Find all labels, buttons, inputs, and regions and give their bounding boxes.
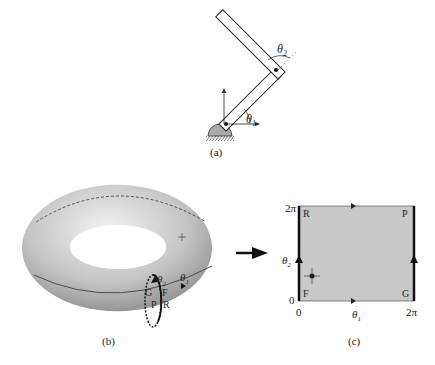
svg-text:θ1: θ1 (352, 308, 361, 323)
svg-text:2π: 2π (285, 202, 297, 214)
caption-c: (c) (348, 335, 361, 348)
svg-text:θ1: θ1 (246, 112, 256, 128)
panel-a-robot-arm: θ1 θ2 (a) (206, 10, 296, 159)
svg-text:G: G (145, 287, 152, 298)
svg-text:θ2: θ2 (277, 42, 287, 58)
svg-text:θ2: θ2 (282, 254, 291, 269)
svg-text:P: P (151, 299, 157, 310)
svg-text:P: P (402, 208, 408, 219)
svg-text:R: R (163, 299, 170, 310)
svg-text:F: F (162, 287, 168, 298)
svg-text:2π: 2π (406, 306, 418, 318)
svg-text:0: 0 (296, 306, 302, 318)
svg-text:0: 0 (289, 294, 295, 306)
svg-text:R: R (303, 208, 310, 219)
svg-text:G: G (402, 288, 409, 299)
panel-b-torus: θ2 θ1 G F P R (b) (22, 185, 212, 348)
caption-a: (a) (210, 146, 223, 159)
svg-text:F: F (303, 288, 309, 299)
caption-b: (b) (102, 335, 115, 348)
figure: θ1 θ2 (a) θ2 θ1 G F P R (b) (0, 0, 435, 365)
panel-c-square: 2π 0 0 2π θ1 θ2 R P F G (c) (282, 202, 418, 348)
mapping-arrow (236, 247, 268, 259)
